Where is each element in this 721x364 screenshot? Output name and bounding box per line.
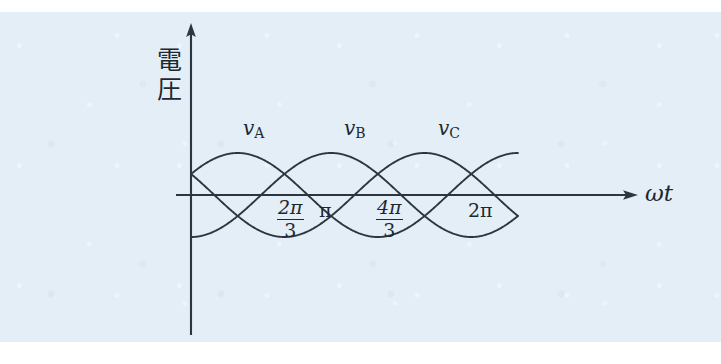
fraction-numerator: 2π — [277, 198, 304, 220]
fraction-denominator: 3 — [376, 220, 403, 241]
curve-label-va-sub: A — [254, 125, 265, 141]
curve-label-vb-sub: B — [355, 125, 366, 141]
curve-label-vc: vC — [438, 118, 460, 140]
x-axis-label: ωt — [645, 182, 673, 205]
y-axis-label-char-2: 圧 — [152, 77, 186, 102]
y-axis-label: 電 圧 — [152, 48, 186, 106]
tick-label-4pi-over-3: 4π 3 — [376, 198, 403, 241]
y-axis-label-char-1: 電 — [152, 48, 186, 73]
fraction-denominator: 3 — [277, 220, 304, 241]
axes-group — [176, 23, 638, 335]
three-phase-voltage-figure: 電 圧 ωt vA vB vC 2π 3 π 4π 3 2π — [0, 0, 721, 364]
curve-label-vb-base: v — [344, 116, 355, 140]
plot-canvas — [0, 0, 721, 364]
fraction-numerator: 4π — [376, 198, 403, 220]
curve-label-va-base: v — [243, 116, 254, 140]
curve-label-vc-sub: C — [449, 125, 460, 141]
tick-label-2pi: 2π — [468, 201, 493, 220]
curve-label-vb: vB — [344, 118, 366, 140]
curve-label-vc-base: v — [438, 116, 449, 140]
fraction-2pi-over-3: 2π 3 — [277, 198, 304, 241]
tick-label-pi: π — [319, 201, 332, 220]
curve-label-va: vA — [243, 118, 265, 140]
fraction-4pi-over-3: 4π 3 — [376, 198, 403, 241]
top-margin — [0, 0, 721, 12]
tick-label-2pi-over-3: 2π 3 — [277, 198, 304, 241]
bottom-margin — [0, 342, 721, 364]
